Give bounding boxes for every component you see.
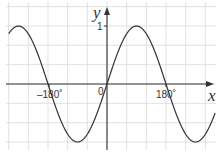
grid-lines (6, 2, 216, 150)
x-tick-label-neg180: –180˚ (37, 89, 63, 100)
y-axis-label: y (91, 3, 101, 22)
y-axis-arrow-icon (104, 7, 110, 15)
x-tick-label-pos180: 180˚ (156, 89, 176, 100)
sine-graph: y x 1 0 –180˚ 180˚ (0, 0, 224, 156)
x-axis-label: x (207, 86, 216, 105)
origin-label: 0 (98, 86, 104, 97)
y-tick-label-1: 1 (97, 21, 103, 32)
